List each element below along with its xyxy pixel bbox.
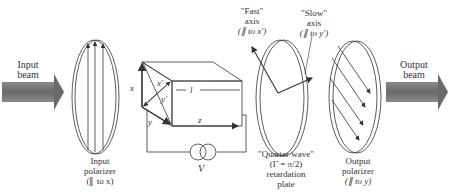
quarter-wave-plate-disc xyxy=(252,36,312,156)
output-polarizer-label-line1: Output xyxy=(330,156,386,166)
axis-x-label: x xyxy=(130,83,134,93)
fast-axis-label: "Fast" axis (∥ to x′) xyxy=(230,6,274,36)
output-polarizer-disc xyxy=(329,41,381,153)
input-beam-label: Input beam xyxy=(6,60,50,80)
slow-axis-label-line2: axis xyxy=(290,18,338,28)
axis-z-label: z xyxy=(198,115,202,125)
output-polarizer-label: Output polarizer (∥ to y) xyxy=(330,156,386,186)
input-polarizer-label: Input polarizer (∥ to x) xyxy=(70,156,130,186)
output-polarizer-label-line2: polarizer xyxy=(330,166,386,176)
quarter-wave-label-line4: plate xyxy=(250,179,322,189)
crystal-length-label: l xyxy=(190,85,193,95)
slow-axis-label: "Slow" axis (∥ to y′) xyxy=(290,8,338,38)
quarter-wave-label-line1: "Quarter wave" xyxy=(250,149,322,159)
input-polarizer-disc xyxy=(72,40,119,154)
axis-y-label: y xyxy=(148,117,152,127)
fast-axis-label-line2: axis xyxy=(230,16,274,26)
input-polarizer-label-line1: Input xyxy=(70,156,130,166)
input-polarizer-label-line2: polarizer xyxy=(70,166,130,176)
slow-axis-label-line3: (∥ to y′) xyxy=(290,28,338,38)
quarter-wave-label-line3: retardation xyxy=(250,169,322,179)
voltage-label: V xyxy=(198,164,204,174)
axis-y-prime-label: y′ xyxy=(161,94,167,104)
fast-axis-label-line1: "Fast" xyxy=(230,6,274,16)
output-beam-label-line2: beam xyxy=(390,70,438,80)
output-beam-label: Output beam xyxy=(390,60,438,80)
quarter-wave-label-line2: (Γ = π/2) xyxy=(250,159,322,169)
slow-axis-label-line1: "Slow" xyxy=(290,8,338,18)
axis-x-prime-label: x′ xyxy=(157,78,163,88)
input-beam-label-line2: beam xyxy=(6,70,50,80)
input-polarizer-label-line3: (∥ to x) xyxy=(70,176,130,186)
fast-axis-label-line3: (∥ to x′) xyxy=(230,26,274,36)
modulator-diagram: Input beam Input polarizer (∥ to x) x y … xyxy=(0,0,450,192)
electro-optic-crystal xyxy=(142,62,246,152)
quarter-wave-label: "Quarter wave" (Γ = π/2) retardation pla… xyxy=(250,149,322,189)
output-polarizer-label-line3: (∥ to y) xyxy=(330,176,386,186)
voltage-source xyxy=(190,144,216,160)
